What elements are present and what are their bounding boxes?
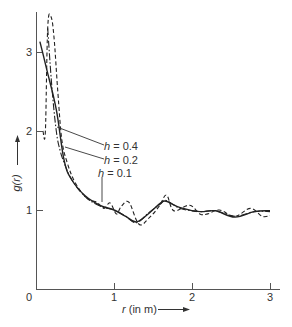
- label-h-0.2: h = 0.2: [104, 154, 138, 166]
- x-tick-label-1: 1: [111, 291, 117, 303]
- y-tick-label-2: 2: [26, 125, 32, 137]
- x-axis-title: r (in m): [122, 303, 157, 315]
- label-h-0.4: h = 0.4: [104, 140, 138, 152]
- leader-h-0.4: [57, 127, 104, 145]
- curve-h-0.1: [43, 14, 270, 225]
- curve-h-0.4: [40, 42, 270, 222]
- leader-h-0.2: [65, 147, 104, 159]
- y-axis-arrow-icon: [15, 135, 20, 165]
- label-h-0.1: h = 0.1: [98, 167, 132, 179]
- x-tick-label-0: 0: [26, 291, 32, 303]
- x-axis-arrow-icon: [158, 307, 190, 312]
- curve-h-0.2: [48, 28, 270, 222]
- x-tick-label-2: 2: [189, 291, 195, 303]
- y-tick-label-3: 3: [26, 46, 32, 58]
- axes: [36, 12, 280, 290]
- rdf-chart: 0 1 2 3 1 2 3 r (in m) g(r) h = 0.4 h = …: [0, 0, 292, 327]
- y-axis-title: g(r): [10, 174, 22, 191]
- y-tick-label-1: 1: [26, 204, 32, 216]
- x-tick-label-3: 3: [267, 291, 273, 303]
- x-axis-unit: (in m): [126, 303, 157, 315]
